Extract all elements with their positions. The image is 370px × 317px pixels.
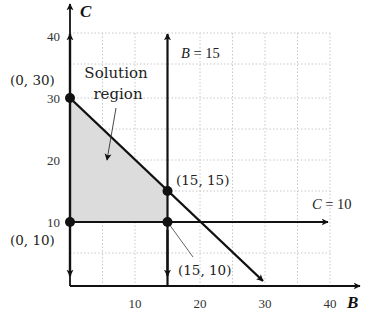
region-label-line1: Solution <box>84 64 148 82</box>
x-tick-30: 30 <box>259 296 272 311</box>
y-tick-10: 10 <box>47 215 60 230</box>
b-equals-15-label: B = 15 <box>181 45 220 61</box>
y-tick-30: 30 <box>47 91 60 106</box>
label-0-10: (0, 10) <box>10 232 55 248</box>
corner-point-15-10 <box>163 217 173 227</box>
label-0-30: (0, 30) <box>10 72 55 88</box>
corner-point-0-30 <box>65 93 75 103</box>
x-tick-40: 40 <box>324 296 337 311</box>
corner-point-15-15 <box>163 186 173 196</box>
c-var: C <box>312 196 322 212</box>
y-tick-40: 40 <box>47 29 60 44</box>
label-15-15: (15, 15) <box>176 172 229 188</box>
b-axis-title: B <box>346 293 358 312</box>
x-tick-20: 20 <box>194 296 207 311</box>
x-tick-10: 10 <box>129 296 142 311</box>
y-tick-20: 20 <box>47 153 60 168</box>
b-var: B <box>181 45 190 61</box>
point-15-10-pointer <box>169 224 193 257</box>
c-axis-title: C <box>80 2 92 21</box>
region-label-line2: region <box>93 85 142 103</box>
c-equals-10-label: C = 10 <box>312 196 352 212</box>
linear-programming-chart: 10 20 30 40 40 30 20 10 C B (0, 30) (15,… <box>0 0 370 317</box>
corner-point-0-10 <box>65 217 75 227</box>
c10-value: = 10 <box>322 196 352 212</box>
label-15-10: (15, 10) <box>178 262 231 278</box>
solution-region <box>70 98 168 222</box>
b15-value: = 15 <box>190 45 220 61</box>
